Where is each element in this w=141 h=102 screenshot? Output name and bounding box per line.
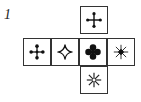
- dotted-cross-icon: [85, 11, 103, 29]
- net-face-top: [80, 6, 108, 34]
- net-face-middle-2: [51, 38, 79, 66]
- figure-label: 1: [4, 7, 11, 23]
- asterisk-dark-center-icon: [112, 43, 130, 61]
- four-dot-cross-icon: [28, 43, 46, 61]
- eight-ray-asterisk-icon: [85, 71, 103, 89]
- net-face-middle-4: [107, 38, 135, 66]
- four-point-star-outline-icon: [56, 43, 74, 61]
- clover-icon: [84, 43, 102, 61]
- net-face-bottom: [80, 66, 108, 94]
- net-face-middle-1: [23, 38, 51, 66]
- net-face-middle-3: [79, 38, 107, 66]
